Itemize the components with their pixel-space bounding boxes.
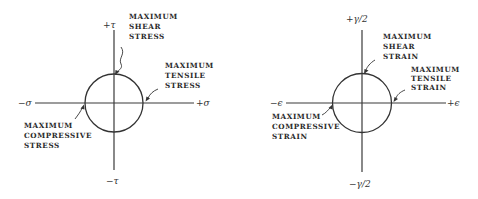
tensile-arrow-icon (148, 89, 158, 98)
svg-text:STRAIN: STRAIN (411, 83, 447, 92)
tensile-arrow-icon (396, 90, 405, 98)
stress-mohr-circle-diagram: +τ −τ −σ +σ MAXIMUM SHEAR STRESS MAXIMUM… (18, 12, 214, 186)
max-tensile-stress-annotation: MAXIMUM TENSILE STRESS (146, 61, 214, 102)
svg-text:COMPRESSIVE: COMPRESSIVE (272, 122, 340, 131)
svg-text:TENSILE: TENSILE (165, 71, 206, 80)
svg-text:STRAIN: STRAIN (383, 52, 419, 61)
svg-text:STRAIN: STRAIN (272, 132, 308, 141)
svg-text:STRESS: STRESS (165, 81, 201, 90)
svg-text:SHEAR: SHEAR (129, 22, 161, 31)
svg-text:MAXIMUM: MAXIMUM (272, 112, 321, 121)
neg-gamma-half-label: −γ/2 (349, 179, 371, 189)
max-compressive-stress-annotation: MAXIMUM COMPRESSIVE STRESS (24, 105, 92, 151)
strain-mohr-circle-diagram: +γ/2 −γ/2 −ϵ +ϵ MAXIMUM SHEAR STRAIN MAX… (270, 14, 460, 189)
svg-text:TENSILE: TENSILE (411, 74, 452, 83)
svg-text:STRESS: STRESS (129, 32, 165, 41)
svg-text:MAXIMUM: MAXIMUM (165, 61, 214, 70)
pos-tau-label: +τ (103, 20, 117, 30)
compressive-arrow-icon (322, 108, 330, 115)
svg-text:STRESS: STRESS (24, 141, 60, 150)
compressive-arrow-icon (75, 108, 82, 119)
max-compressive-strain-annotation: MAXIMUM COMPRESSIVE STRAIN (272, 105, 340, 142)
pos-epsilon-label: +ϵ (447, 98, 460, 108)
mohr-circles-figure: +τ −τ −σ +σ MAXIMUM SHEAR STRESS MAXIMUM… (0, 0, 478, 199)
pos-gamma-half-label: +γ/2 (346, 14, 368, 24)
neg-epsilon-label: −ϵ (270, 98, 283, 108)
svg-text:MAXIMUM: MAXIMUM (411, 65, 460, 74)
max-tensile-strain-annotation: MAXIMUM TENSILE STRAIN (394, 65, 460, 102)
svg-text:SHEAR: SHEAR (383, 42, 415, 51)
shear-arrow-icon (366, 60, 375, 70)
svg-text:MAXIMUM: MAXIMUM (129, 12, 178, 21)
neg-sigma-label: −σ (18, 98, 33, 108)
svg-text:MAXIMUM: MAXIMUM (383, 32, 432, 41)
svg-text:COMPRESSIVE: COMPRESSIVE (24, 131, 92, 140)
pos-sigma-label: +σ (196, 98, 211, 108)
shear-arrow-icon (117, 47, 123, 72)
neg-tau-label: −τ (106, 176, 120, 186)
svg-text:MAXIMUM: MAXIMUM (24, 121, 73, 130)
